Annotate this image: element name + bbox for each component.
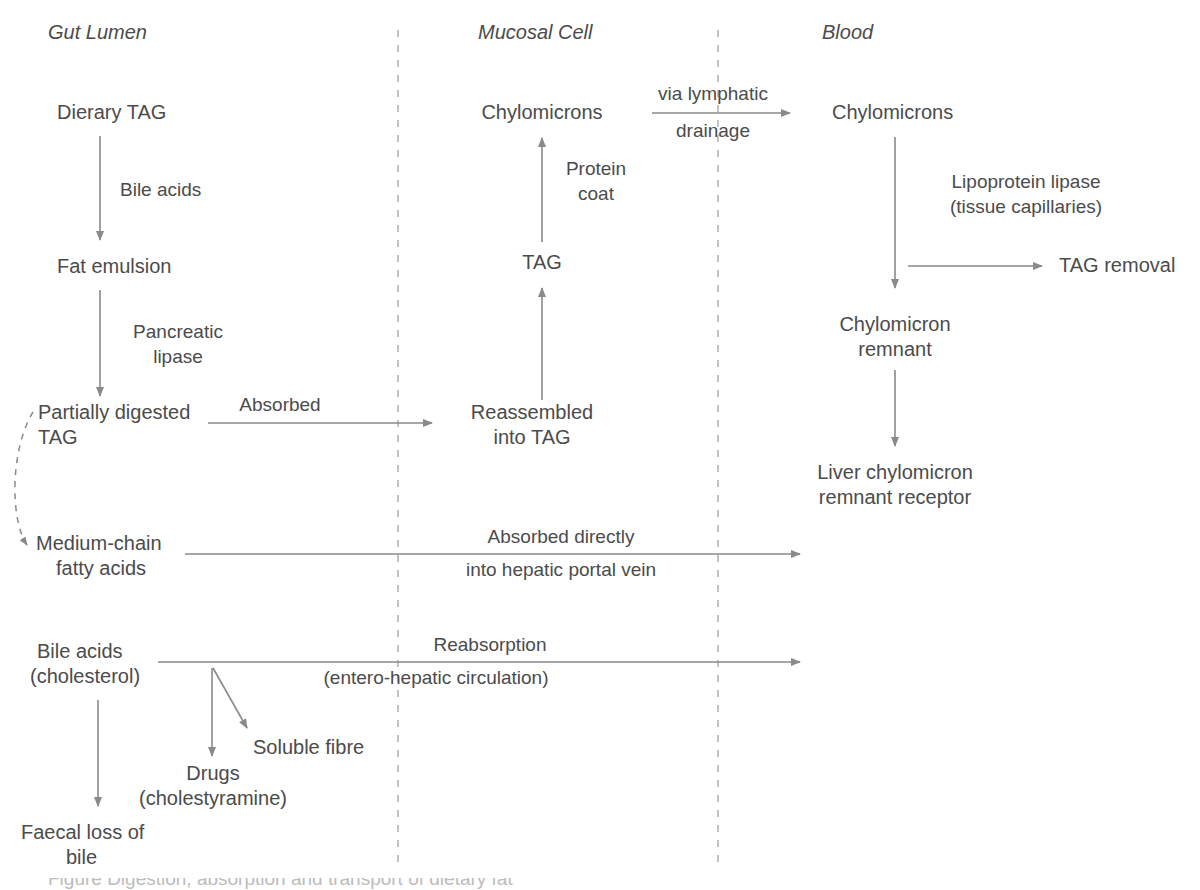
node-drugs-line1: Drugs — [186, 761, 239, 787]
edge-label-protein-coat-line2: coat — [578, 182, 614, 206]
node-dietary-tag: Dierary TAG — [57, 100, 166, 126]
node-chylomicron-remnant-line2: remnant — [858, 337, 931, 363]
edge-label-via-lymphatic-line1: via lymphatic — [658, 82, 768, 106]
edge-label-pancreatic-lipase-line2: lipase — [153, 345, 203, 369]
node-reassembled-into-tag-line1: Reassembled — [471, 400, 593, 426]
column-header-mucosal-cell: Mucosal Cell — [478, 20, 592, 46]
node-partially-digested-tag-line2: TAG — [38, 425, 78, 451]
node-liver-remnant-receptor-line1: Liver chylomicron — [817, 460, 973, 486]
node-soluble-fibre: Soluble fibre — [253, 735, 364, 761]
edge-label-lipoprotein-lipase-line1: Lipoprotein lipase — [952, 170, 1101, 194]
edge-label-reabsorption-line2: (entero-hepatic circulation) — [324, 666, 549, 690]
edge-label-absorbed-directly-line1: Absorbed directly — [488, 525, 635, 549]
node-medium-chain-fatty-acids-line2: fatty acids — [56, 556, 146, 582]
arrow-partial-to-mcfa — [15, 412, 33, 545]
lipid-digestion-diagram: Gut Lumen Mucosal Cell Blood Dierary TAG… — [0, 0, 1200, 890]
node-faecal-loss-line1: Faecal loss of — [21, 820, 144, 846]
node-reassembled-into-tag-line2: into TAG — [493, 425, 570, 451]
edge-label-absorbed: Absorbed — [239, 393, 320, 417]
node-partially-digested-tag-line1: Partially digested — [38, 400, 190, 426]
edge-label-protein-coat-line1: Protein — [566, 157, 626, 181]
edge-label-reabsorption-line1: Reabsorption — [433, 633, 546, 657]
node-medium-chain-fatty-acids-line1: Medium-chain — [36, 531, 162, 557]
node-chylomicrons-blood: Chylomicrons — [832, 100, 953, 126]
node-chylomicrons-mucosal: Chylomicrons — [481, 100, 602, 126]
node-liver-remnant-receptor-line2: remnant receptor — [819, 485, 971, 511]
edge-label-pancreatic-lipase-line1: Pancreatic — [133, 320, 223, 344]
node-bile-acids-cholesterol-line1: Bile acids — [37, 639, 123, 665]
node-tag-removal: TAG removal — [1059, 253, 1175, 279]
node-tag-mucosal: TAG — [522, 250, 562, 276]
figure-caption-clipped: Figure Digestion, absorption and transpo… — [0, 878, 1200, 890]
node-faecal-loss-line2: bile — [66, 845, 97, 871]
node-chylomicron-remnant-line1: Chylomicron — [839, 312, 950, 338]
column-header-gut-lumen: Gut Lumen — [48, 20, 147, 46]
edge-label-bile-acids: Bile acids — [120, 178, 201, 202]
node-fat-emulsion: Fat emulsion — [57, 254, 172, 280]
column-header-blood: Blood — [822, 20, 873, 46]
connector-layer — [0, 0, 1200, 890]
edge-label-lipoprotein-lipase-line2: (tissue capillaries) — [950, 195, 1102, 219]
node-bile-acids-cholesterol-line2: (cholesterol) — [30, 664, 140, 690]
edge-label-via-lymphatic-line2: drainage — [676, 119, 750, 143]
arrow-bile-to-fibre — [213, 668, 247, 728]
node-drugs-line2: (cholestyramine) — [139, 786, 287, 812]
figure-caption-text: Figure Digestion, absorption and transpo… — [48, 878, 513, 890]
edge-label-absorbed-directly-line2: into hepatic portal vein — [466, 558, 656, 582]
